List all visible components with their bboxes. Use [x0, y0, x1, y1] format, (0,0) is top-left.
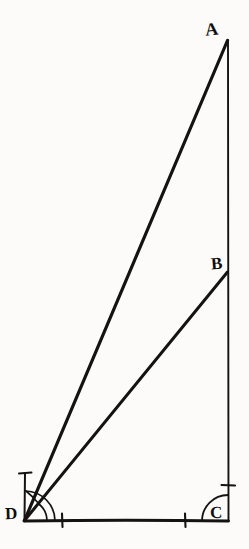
- figure-canvas: [0, 0, 249, 549]
- angle-arc-d-inner: [40, 505, 48, 522]
- ray-d-serif-cap-icon: [19, 473, 32, 474]
- vertex-label-c: C: [210, 504, 223, 521]
- segment-da: [25, 41, 228, 521]
- vertex-label-b: B: [210, 255, 223, 273]
- tick-mark-dc-second: [185, 514, 186, 528]
- segment-db: [25, 272, 228, 521]
- tick-mark-ac: [222, 485, 236, 486]
- vertex-label-a: A: [204, 19, 219, 38]
- geometry-figure: A B C D: [0, 0, 249, 549]
- tick-mark-dc-first: [62, 514, 63, 528]
- segment-ac: [228, 40, 229, 521]
- vertex-label-d: D: [5, 505, 18, 522]
- ray-d-vertical: [25, 473, 26, 521]
